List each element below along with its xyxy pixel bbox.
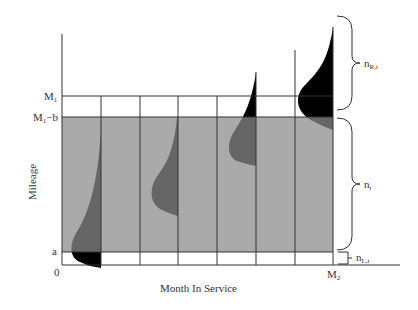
y-axis-label: Mileage xyxy=(26,164,38,200)
x-tick-m2: M2 xyxy=(327,268,341,282)
x-axis-label: Month In Service xyxy=(160,282,237,294)
brace-observed xyxy=(337,118,360,250)
y-tick-a: a xyxy=(52,245,57,257)
label-right-censored: nR,t xyxy=(364,57,378,71)
brace-left-censored xyxy=(338,252,352,264)
warranty-mileage-diagram: M1 M1−b a 0 M2 Month In Service Mileage … xyxy=(0,0,418,310)
y-tick-m1: M1 xyxy=(44,90,58,104)
y-tick-zero: 0 xyxy=(54,266,60,278)
braces xyxy=(337,16,360,264)
label-left-censored: nL,t xyxy=(356,251,370,265)
observed-region xyxy=(62,117,333,252)
brace-right-censored xyxy=(337,16,360,110)
y-tick-m1-minus-b: M1−b xyxy=(33,111,58,125)
label-observed: nt xyxy=(364,178,372,192)
